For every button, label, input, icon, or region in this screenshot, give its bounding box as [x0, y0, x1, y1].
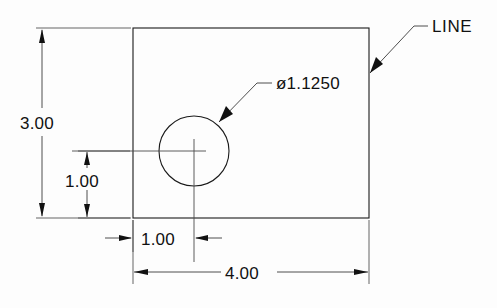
arrowhead-4p00-right: [354, 269, 368, 275]
dim-label-hole-x: 1.00: [141, 230, 175, 249]
arrowhead-3p00-top: [39, 29, 45, 43]
arrowhead-1p00-vert-bottom: [84, 204, 90, 217]
arrowhead-3p00-bottom: [39, 203, 45, 217]
arrowhead-1p00-vert-top: [84, 152, 90, 165]
part-rectangle-outline: [133, 28, 369, 218]
arrowhead-1p00-horiz-right: [195, 235, 208, 241]
arrowhead-line-leader: [370, 57, 383, 73]
callout-label-diameter: ø1.1250: [276, 74, 340, 93]
arrowhead-1p00-horiz-left: [119, 235, 132, 241]
dim-label-width: 4.00: [225, 264, 259, 283]
dim-label-hole-y: 1.00: [65, 172, 99, 191]
engineering-drawing-canvas: 3.00 1.00 1.00 4.00 ø1.1250 LINE: [0, 0, 497, 308]
arrowhead-diameter-leader: [219, 106, 233, 122]
dim-label-height: 3.00: [20, 114, 54, 133]
arrowhead-4p00-left: [134, 269, 148, 275]
callout-label-line: LINE: [432, 17, 472, 36]
